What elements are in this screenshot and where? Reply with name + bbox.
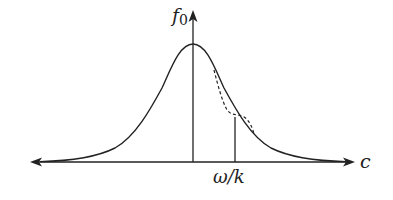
plot-canvas xyxy=(0,0,393,200)
y-axis-label: f0 xyxy=(172,4,188,28)
y-axis xyxy=(189,10,198,162)
phase-velocity-label: ω/k xyxy=(213,166,245,187)
x-axis-label: c xyxy=(360,150,371,172)
